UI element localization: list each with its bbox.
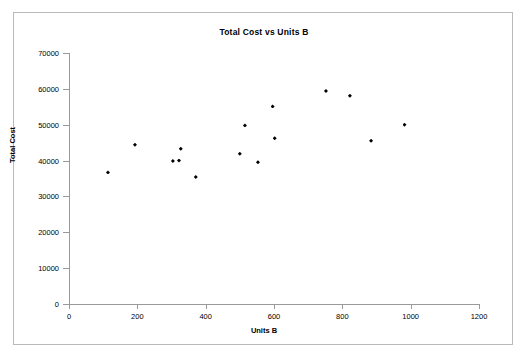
data-point [238, 152, 242, 156]
x-tick-label: 1000 [402, 312, 419, 321]
data-point [403, 123, 407, 127]
x-tick-label: 1200 [471, 312, 488, 321]
data-point [171, 159, 175, 163]
y-tick-mark [63, 232, 69, 233]
plot-area [69, 53, 479, 304]
x-axis-title: Units B [14, 326, 514, 335]
y-tick-mark [63, 53, 69, 54]
data-point [177, 159, 181, 163]
x-tick-label: 0 [67, 312, 71, 321]
data-point [324, 89, 328, 93]
x-tick-mark [137, 304, 138, 309]
data-point [194, 175, 198, 179]
chart-container: Total Cost vs Units B Total Cost Units B… [13, 12, 513, 345]
y-tick-mark [63, 89, 69, 90]
data-point [348, 94, 352, 98]
data-point [133, 143, 137, 147]
y-tick-label: 70000 [38, 49, 59, 58]
x-tick-mark [206, 304, 207, 309]
x-tick-label: 400 [199, 312, 212, 321]
x-tick-mark [342, 304, 343, 309]
x-tick-label: 800 [336, 312, 349, 321]
y-tick-label: 40000 [38, 156, 59, 165]
y-tick-label: 10000 [38, 264, 59, 273]
data-point [273, 136, 277, 140]
data-point [271, 104, 275, 108]
data-point [243, 123, 247, 127]
y-axis-ticks: 010000200003000040000500006000070000 [14, 13, 59, 346]
data-point [369, 139, 373, 143]
x-tick-label: 600 [268, 312, 281, 321]
x-tick-mark [411, 304, 412, 309]
data-point [256, 160, 260, 164]
data-point [106, 170, 110, 174]
chart-title: Total Cost vs Units B [14, 27, 514, 37]
y-tick-label: 0 [55, 300, 59, 309]
y-tick-mark [63, 125, 69, 126]
x-tick-mark [274, 304, 275, 309]
y-tick-label: 20000 [38, 228, 59, 237]
y-tick-mark [63, 161, 69, 162]
x-tick-label: 200 [131, 312, 144, 321]
y-tick-label: 50000 [38, 120, 59, 129]
x-tick-mark [479, 304, 480, 309]
data-point [179, 147, 183, 151]
y-tick-label: 60000 [38, 84, 59, 93]
y-tick-label: 30000 [38, 192, 59, 201]
x-tick-mark [69, 304, 70, 309]
y-tick-mark [63, 268, 69, 269]
y-tick-mark [63, 196, 69, 197]
